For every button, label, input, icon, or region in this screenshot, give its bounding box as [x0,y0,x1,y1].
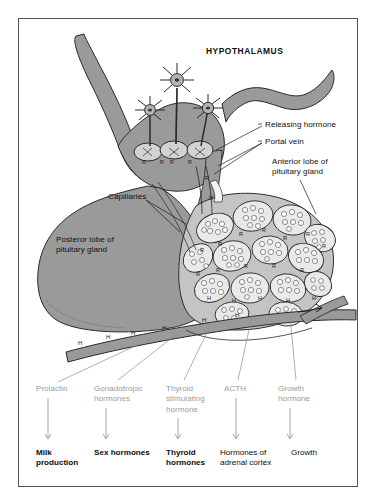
svg-text:R: R [283,235,287,241]
svg-text:R: R [322,243,326,249]
svg-text:R: R [218,241,222,247]
hormone-label-acth: ACTH [224,384,246,394]
svg-text:R: R [300,267,304,273]
svg-text:R: R [239,231,243,237]
hormone-label-gonadotropic-hormones: Gonadotropic hormones [94,384,143,405]
callout-portal-vein: Portal vein [265,137,304,147]
svg-text:R: R [188,159,192,165]
svg-text:R: R [205,175,209,181]
callout-anterior-lobe: Anterior lobe of pituitary gland [272,157,328,177]
svg-text:H: H [78,339,82,346]
svg-text:H: H [106,333,110,340]
svg-text:H: H [162,324,166,331]
target-label-growth: Growth [291,448,317,458]
svg-text:R: R [196,271,200,277]
target-label-sex-hormones: Sex hormones [94,448,150,458]
hormone-label-thyroid-stimulating-hormone: Thyroid stimulating hormone [166,384,205,415]
svg-text:R: R [142,159,146,165]
svg-text:R: R [170,159,174,165]
svg-text:R: R [200,247,204,253]
target-label-thyroid-hormones: Thyroid hormones [166,448,205,469]
svg-text:H: H [258,295,262,301]
svg-text:H: H [131,329,135,336]
target-label-adrenal-cortex: Hormones of adrenal cortex [220,448,271,469]
svg-text:R: R [272,263,276,269]
svg-text:H: H [286,297,290,303]
svg-text:R: R [216,267,220,273]
callout-releasing-hormone: Releasing hormone [265,120,336,130]
svg-text:R: R [262,227,266,233]
svg-text:H: H [207,295,211,301]
callout-capillaries: Capillaries [108,192,146,202]
svg-text:R: R [209,195,213,201]
svg-text:H: H [312,295,316,301]
svg-text:R: R [160,159,164,165]
hormone-label-growth-hormone: Growth hormone [278,384,310,405]
svg-text:R: R [306,231,310,237]
target-label-milk-production: Milk production [36,448,78,469]
svg-text:H: H [202,316,206,323]
svg-text:H: H [232,297,236,303]
svg-text:R: R [244,263,248,269]
svg-text:H: H [235,311,239,318]
figure-title: HYPOTHALAMUS [206,46,283,56]
callout-posterior-lobe: Posteror lobe of pituitary gland [56,235,114,255]
hormone-label-prolactin: Prolactin [36,384,68,394]
